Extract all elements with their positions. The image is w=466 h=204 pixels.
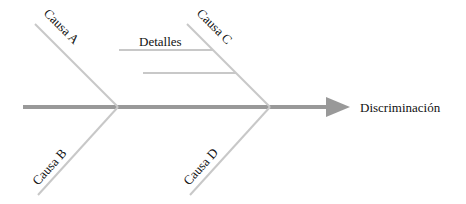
bone-cause-d — [190, 107, 270, 195]
label-effect: Discriminación — [360, 100, 441, 115]
label-cause-a: Causa A — [41, 6, 83, 48]
label-details: Detalles — [139, 34, 182, 49]
spine-arrowhead — [326, 97, 350, 117]
label-cause-c: Causa C — [194, 6, 236, 48]
fishbone-diagram: Causa A Causa B Causa C Causa D Detalles… — [0, 0, 466, 204]
bone-cause-b — [38, 107, 118, 195]
